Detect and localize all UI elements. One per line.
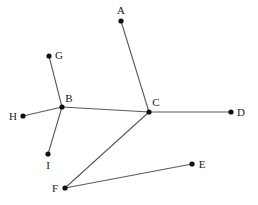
graph-vertex-b bbox=[59, 104, 64, 109]
graph-edge-a-c bbox=[121, 21, 149, 112]
vertex-label-h: H bbox=[9, 111, 17, 122]
vertex-label-c: C bbox=[152, 97, 159, 108]
vertex-label-a: A bbox=[117, 5, 125, 16]
graph-edge-c-f bbox=[65, 112, 149, 188]
vertex-label-e: E bbox=[199, 159, 206, 170]
graph-diagram: ABCDEFGHI bbox=[0, 0, 258, 205]
graph-edge-b-g bbox=[49, 56, 62, 107]
graph-vertex-e bbox=[189, 161, 194, 166]
graph-vertex-i bbox=[45, 151, 50, 156]
vertex-label-f: F bbox=[52, 183, 58, 194]
vertex-label-i: I bbox=[46, 160, 50, 171]
graph-edge-b-c bbox=[62, 107, 149, 112]
vertex-label-g: G bbox=[55, 50, 63, 61]
vertex-label-b: B bbox=[65, 93, 72, 104]
graph-vertex-d bbox=[228, 109, 233, 114]
graph-edge-f-e bbox=[65, 164, 192, 188]
graph-edge-b-i bbox=[48, 107, 62, 154]
graph-vertex-c bbox=[146, 109, 151, 114]
graph-vertex-g bbox=[46, 53, 51, 58]
graph-vertex-h bbox=[20, 113, 25, 118]
graph-canvas bbox=[0, 0, 258, 205]
graph-vertex-f bbox=[62, 185, 67, 190]
vertex-label-d: D bbox=[237, 107, 245, 118]
graph-vertex-a bbox=[118, 18, 123, 23]
graph-edge-b-h bbox=[23, 107, 62, 116]
